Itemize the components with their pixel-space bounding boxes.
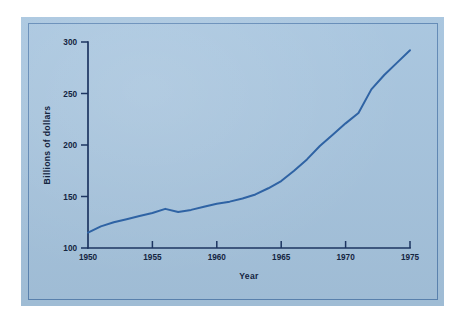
y-tick-label: 100 bbox=[63, 244, 77, 253]
x-axis-tick-labels: 195019551960196519701975 bbox=[79, 253, 420, 262]
y-axis-ticks bbox=[81, 42, 88, 248]
y-tick-label: 200 bbox=[63, 141, 77, 150]
y-tick-label: 250 bbox=[63, 90, 77, 99]
y-axis-title: Billions of dollars bbox=[42, 106, 52, 185]
x-tick-label: 1960 bbox=[208, 253, 227, 262]
y-tick-label: 150 bbox=[63, 193, 77, 202]
x-tick-label: 1975 bbox=[401, 253, 420, 262]
y-axis-tick-labels: 100150200250300 bbox=[63, 38, 77, 253]
data-series-group bbox=[88, 50, 410, 232]
x-tick-label: 1965 bbox=[272, 253, 291, 262]
x-tick-label: 1955 bbox=[143, 253, 162, 262]
y-tick-label: 300 bbox=[63, 38, 77, 47]
x-tick-label: 1970 bbox=[336, 253, 355, 262]
x-axis-title: Year bbox=[239, 271, 259, 281]
x-axis-ticks bbox=[152, 241, 410, 248]
chart-page: 100150200250300 195019551960196519701975… bbox=[0, 0, 465, 324]
data-series-line bbox=[88, 50, 410, 232]
x-tick-label: 1950 bbox=[79, 253, 98, 262]
line-chart: 100150200250300 195019551960196519701975… bbox=[0, 0, 465, 324]
